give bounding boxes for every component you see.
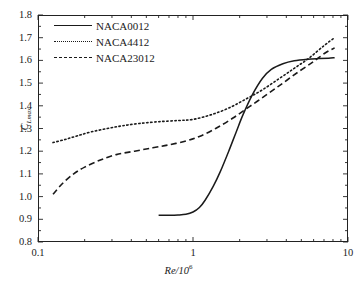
- x-axis-title-text: Re/10: [165, 265, 190, 276]
- y-axis-tick-label: 1.8: [0, 10, 32, 20]
- y-axis-tick-label: 0.8: [0, 237, 32, 247]
- y-axis-tick-label: 1.0: [0, 192, 32, 202]
- legend-item: NACA0012: [52, 18, 155, 34]
- x-axis-tick-label: 10: [328, 248, 357, 258]
- legend-label: NACA0012: [96, 21, 149, 32]
- legend-swatch-dotted: [52, 37, 94, 47]
- legend-item: NACA4412: [52, 34, 155, 50]
- legend-swatch-dashed: [52, 53, 94, 63]
- x-axis-tick-label: 0.1: [18, 248, 58, 258]
- x-axis-tick-label: 1: [173, 248, 213, 258]
- legend-label: NACA4412: [96, 37, 149, 48]
- y-axis-tick-label: 0.9: [0, 214, 32, 224]
- x-axis-title-exponent: 6: [189, 263, 193, 271]
- y-axis-tick-label: 1.6: [0, 55, 32, 65]
- y-axis-tick-label: 1.1: [0, 169, 32, 179]
- legend-swatch-solid: [52, 21, 94, 31]
- x-axis-title: Re/106: [0, 263, 357, 276]
- figure: 0.80.91.01.11.21.31.41.51.61.71.8 0.1110…: [0, 0, 357, 282]
- legend-item: NACA23012: [52, 50, 155, 66]
- legend: NACA0012NACA4412NACA23012: [52, 18, 155, 66]
- y-axis-tick-label: 1.5: [0, 78, 32, 88]
- y-axis-tick-label: 1.7: [0, 33, 32, 43]
- y-axis-title-subscript: Lmax: [25, 108, 33, 124]
- legend-label: NACA23012: [96, 53, 155, 64]
- y-axis-title: CLmax: [19, 89, 33, 149]
- y-axis-title-base: C: [19, 123, 30, 130]
